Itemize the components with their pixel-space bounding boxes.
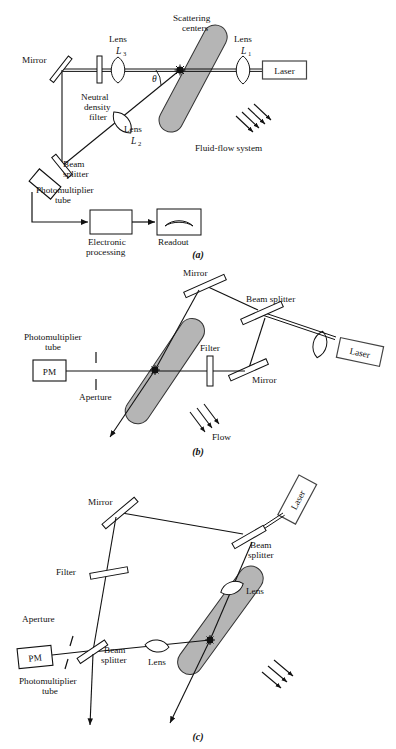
- theta-arc-a: [156, 70, 161, 85]
- lens-l2-subscript-a: 2: [138, 140, 141, 147]
- mirror-label-c: Mirror: [88, 497, 113, 507]
- lens-l1-subscript-a: 1: [248, 50, 251, 57]
- lens-upper-label-c: Lens: [246, 586, 264, 596]
- mirror-bottom-label-b: Mirror: [252, 375, 277, 385]
- flow-arrows-c: [262, 660, 293, 688]
- photomultiplier-label-line1-c: Photomultiplier: [19, 676, 77, 686]
- fluid-flow-tube-a: [155, 21, 232, 136]
- filter-label-b: Filter: [200, 343, 220, 353]
- electronic-label-line2-a: processing: [86, 247, 126, 257]
- neutral-density-filter-a: [97, 56, 102, 83]
- laser-beam-a: [63, 69, 262, 71]
- beam-splitter-label-line1-a: Beam: [63, 159, 84, 169]
- nd-filter-label-line1-a: Neutral: [81, 92, 109, 102]
- beam-splitter-label-line2-a: splitter: [63, 169, 89, 179]
- scattering-centers-label-line2-a: centers: [182, 23, 208, 33]
- lens-l1-a: [236, 56, 250, 84]
- readout-label-a: Readout: [158, 237, 189, 247]
- mirror-label-a: Mirror: [22, 55, 47, 65]
- panel-label-b: (b): [192, 446, 204, 458]
- filter-label-c: Filter: [56, 567, 76, 577]
- laser-box-c: Laser: [278, 475, 317, 524]
- beam-mirror-to-bottom-splitter-c: [93, 517, 116, 651]
- panel-label-c: (c): [192, 731, 203, 743]
- mirror-top-label-b: Mirror: [183, 268, 208, 278]
- filter-b: [207, 356, 213, 386]
- lens-l3-a: [111, 57, 125, 83]
- figure-laser-doppler-velocimetry: Laser θ: [0, 0, 396, 749]
- beam-splitter-bottom-label-line2-c: splitter: [101, 655, 127, 665]
- beam-splitter-top-label-line1-c: Beam: [250, 540, 271, 550]
- laser-label-a: Laser: [274, 66, 294, 76]
- nd-filter-label-line3-a: filter: [89, 112, 107, 122]
- flow-arrows-b: [190, 404, 219, 432]
- panel-c: Laser Filter Lens: [17, 475, 317, 743]
- flow-arrows-a: [236, 104, 271, 132]
- beam-splitter-top-label-line2-c: splitter: [248, 550, 274, 560]
- laser-box-b: Laser: [336, 338, 383, 367]
- lens-lower-label-c: Lens: [148, 657, 166, 667]
- aperture-label-c: Aperture: [22, 614, 55, 624]
- scattering-centers-label-line1-a: Scattering: [173, 13, 211, 23]
- beam-splitter-bottom-label-line1-c: Beam: [104, 645, 125, 655]
- pm-label-c: PM: [28, 652, 42, 663]
- nd-filter-label-line2-a: density: [84, 102, 111, 112]
- lens-l1-symbol-a: L: [240, 45, 246, 56]
- beam-bottom-splitter-down-c: [90, 654, 93, 725]
- lens-l2-label-a: Lens: [124, 124, 142, 134]
- electronic-label-line1-a: Electronic: [88, 237, 126, 247]
- theta-label-a: θ: [152, 73, 157, 84]
- aperture-label-b: Aperture: [79, 392, 112, 402]
- photomultiplier-label-line2-a: tube: [55, 195, 71, 205]
- flow-label-b: Flow: [212, 432, 231, 442]
- panel-b: Flow Laser: [24, 268, 384, 458]
- photomultiplier-label-line1-b: Photomultiplier: [24, 332, 82, 342]
- pm-label-b: PM: [43, 367, 56, 377]
- lens-l3-subscript-a: 3: [123, 50, 127, 57]
- lens-l1-label-a: Lens: [234, 34, 252, 44]
- lens-l2-symbol-a: L: [130, 135, 136, 146]
- pm-box-c: PM: [17, 645, 53, 668]
- electronic-processing-box-a: [90, 210, 132, 234]
- lens-l3-label-a: Lens: [109, 34, 127, 44]
- fluid-flow-system-label-a: Fluid-flow system: [195, 143, 262, 153]
- lens-l3-symbol-a: L: [115, 45, 121, 56]
- lens-lower-c: [144, 639, 169, 653]
- photomultiplier-label-line1-a: Photomultiplier: [36, 185, 94, 195]
- photomultiplier-label-line2-c: tube: [42, 686, 58, 696]
- photomultiplier-label-line2-b: tube: [45, 342, 61, 352]
- panel-label-a: (a): [192, 249, 204, 261]
- beam-splitter-label-b: Beam splitter: [246, 294, 295, 304]
- beam-splitter-to-mirror-c: [122, 513, 243, 534]
- filter-c: [90, 567, 128, 580]
- fluid-flow-tube-c: [173, 561, 268, 679]
- panel-a: Laser θ: [22, 13, 307, 261]
